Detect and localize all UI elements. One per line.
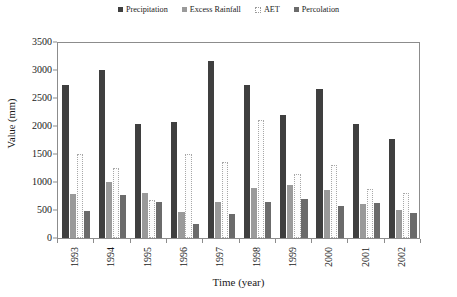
bar[interactable] xyxy=(70,194,76,238)
bar[interactable] xyxy=(178,212,184,238)
bar[interactable] xyxy=(258,120,264,238)
x-axis-title: Time (year) xyxy=(57,276,420,288)
chart-legend: PrecipitationExcess RainfallAETPercolati… xyxy=(0,2,457,18)
y-axis-tick-label: 1000 xyxy=(32,177,52,187)
bar-group xyxy=(58,43,94,238)
legend-item-label: AET xyxy=(264,6,280,14)
bar-group xyxy=(348,43,384,238)
excess-rainfall-swatch-icon xyxy=(182,7,187,12)
x-axis-tick-mark xyxy=(57,239,58,243)
bar[interactable] xyxy=(149,200,155,238)
x-axis-tick-mark xyxy=(202,239,203,243)
legend-item[interactable]: Percolation xyxy=(294,6,339,14)
x-axis-tick-label-text: 1994 xyxy=(106,247,116,267)
legend-item-label: Precipitation xyxy=(126,6,168,14)
bar[interactable] xyxy=(353,124,359,238)
bar[interactable] xyxy=(208,61,214,238)
bar[interactable] xyxy=(403,193,409,238)
x-axis-tick-label: 2002 xyxy=(385,240,419,262)
bar[interactable] xyxy=(106,182,112,238)
x-axis-tick-label-text: 2000 xyxy=(324,247,334,267)
x-axis-tick-label-text: 1995 xyxy=(143,247,153,267)
bar[interactable] xyxy=(324,190,330,238)
bar[interactable] xyxy=(62,85,68,238)
bar[interactable] xyxy=(265,202,271,238)
bar[interactable] xyxy=(294,174,300,238)
x-axis-tick-mark xyxy=(420,239,421,243)
bar[interactable] xyxy=(84,211,90,238)
bar[interactable] xyxy=(229,214,235,238)
y-axis-title: Value (mm) xyxy=(6,59,17,189)
bar[interactable] xyxy=(222,162,228,238)
bar[interactable] xyxy=(113,168,119,238)
legend-item[interactable]: Excess Rainfall xyxy=(182,6,241,14)
x-axis-tick-label: 2000 xyxy=(312,240,346,262)
bar[interactable] xyxy=(389,139,395,238)
x-axis-tick-label-text: 1998 xyxy=(252,247,262,267)
bar[interactable] xyxy=(77,154,83,238)
bar[interactable] xyxy=(338,206,344,238)
bar-group xyxy=(276,43,312,238)
percolation-swatch-icon xyxy=(294,7,299,12)
x-axis-tick-label-text: 2002 xyxy=(397,247,407,267)
x-axis-tick-label: 1996 xyxy=(167,240,201,262)
bar[interactable] xyxy=(142,193,148,238)
legend-item-label: Percolation xyxy=(302,6,339,14)
x-axis-tick-mark xyxy=(130,239,131,243)
bar[interactable] xyxy=(156,202,162,238)
bar-group xyxy=(203,43,239,238)
y-axis-tick-label: 500 xyxy=(37,205,52,215)
bar[interactable] xyxy=(171,122,177,238)
bar-group xyxy=(131,43,167,238)
y-axis-tick-label: 3000 xyxy=(32,65,52,75)
bar[interactable] xyxy=(251,188,257,238)
bar[interactable] xyxy=(244,85,250,238)
x-axis-tick-label-text: 1993 xyxy=(70,247,80,267)
bar[interactable] xyxy=(301,199,307,238)
bar[interactable] xyxy=(374,203,380,238)
bar[interactable] xyxy=(135,124,141,238)
bar[interactable] xyxy=(360,204,366,238)
y-axis-tick-label: 2000 xyxy=(32,121,52,131)
x-axis-tick-label: 1998 xyxy=(240,240,274,262)
bar[interactable] xyxy=(215,202,221,238)
bar[interactable] xyxy=(316,89,322,238)
bar-group xyxy=(94,43,130,238)
x-axis-tick-label: 1997 xyxy=(203,240,237,262)
bar-group xyxy=(167,43,203,238)
x-axis-tick-label-text: 1996 xyxy=(179,247,189,267)
bar[interactable] xyxy=(280,115,286,238)
x-axis-tick-label-text: 1999 xyxy=(288,247,298,267)
y-axis-tick-label: 0 xyxy=(47,233,52,243)
x-axis-tick-label: 1999 xyxy=(276,240,310,262)
bar[interactable] xyxy=(287,185,293,238)
x-axis-tick-label: 2001 xyxy=(349,240,383,262)
bar[interactable] xyxy=(331,165,337,238)
precip-swatch-icon xyxy=(118,7,123,12)
bar-group xyxy=(240,43,276,238)
bar[interactable] xyxy=(396,210,402,238)
bar-group xyxy=(385,43,421,238)
x-axis-tick-mark xyxy=(311,239,312,243)
plot-area xyxy=(57,42,420,239)
x-axis-tick-mark xyxy=(93,239,94,243)
x-axis-tick-label: 1993 xyxy=(58,240,92,262)
legend-item[interactable]: AET xyxy=(255,6,280,14)
x-axis-tick-mark xyxy=(275,239,276,243)
bar[interactable] xyxy=(185,154,191,238)
x-axis: 1993199419951996199719981999200020012002 xyxy=(57,240,420,272)
legend-item[interactable]: Precipitation xyxy=(118,6,168,14)
bar[interactable] xyxy=(193,224,199,238)
x-axis-tick-mark xyxy=(166,239,167,243)
aet-swatch-icon xyxy=(255,7,261,13)
y-axis-tick-label: 1500 xyxy=(32,149,52,159)
x-axis-tick-label-text: 2001 xyxy=(361,247,371,267)
x-axis-tick-label-text: 1997 xyxy=(215,247,225,267)
y-axis-tick-label: 3500 xyxy=(32,37,52,47)
bar[interactable] xyxy=(99,70,105,238)
bar[interactable] xyxy=(367,189,373,238)
bar[interactable] xyxy=(120,195,126,238)
x-axis-tick-label: 1995 xyxy=(131,240,165,262)
legend-item-label: Excess Rainfall xyxy=(190,6,241,14)
bar[interactable] xyxy=(410,213,416,238)
